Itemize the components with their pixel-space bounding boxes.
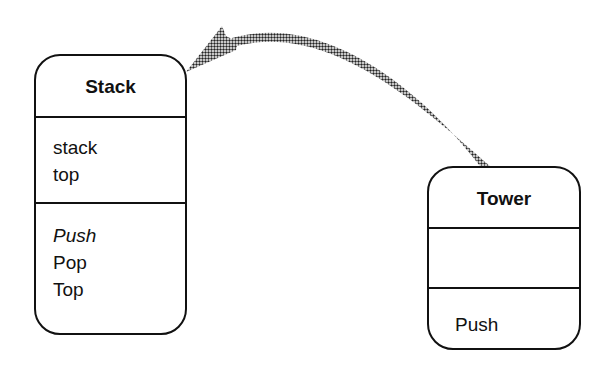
- arrow-shaft: [232, 33, 490, 166]
- class-stack-attributes: stack top: [36, 116, 185, 203]
- operation: Push: [455, 311, 579, 338]
- class-tower-operations: Push: [429, 287, 579, 347]
- attribute: stack: [53, 134, 185, 161]
- operation: Top: [53, 276, 185, 303]
- class-tower[interactable]: Tower Push: [427, 166, 581, 350]
- class-name: Tower: [429, 188, 579, 210]
- class-stack-operations: Push Pop Top: [36, 202, 185, 332]
- operation: Push: [53, 222, 185, 249]
- class-stack-name-section: Stack: [36, 56, 185, 118]
- class-name: Stack: [36, 76, 185, 98]
- class-tower-name-section: Tower: [429, 168, 579, 228]
- attribute: top: [53, 161, 185, 188]
- class-tower-attributes: [429, 227, 579, 288]
- class-stack[interactable]: Stack stack top Push Pop Top: [34, 54, 187, 335]
- arrow-head: [186, 26, 238, 72]
- operation: Pop: [53, 249, 185, 276]
